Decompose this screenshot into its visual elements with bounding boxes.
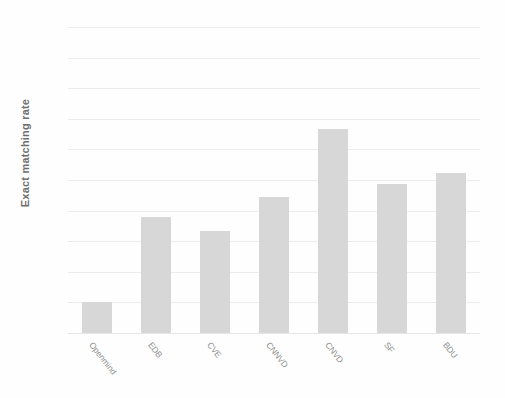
bar-chart: Exact matching rate 0.50.450.40.350.30.2… [0, 0, 505, 398]
x-axis-tick-label: EDB [146, 340, 164, 360]
x-axis-tick-label: CNVD [323, 340, 345, 365]
x-axis-tick-slot: SF [362, 336, 421, 396]
bar-slot [245, 27, 304, 333]
bar [82, 302, 112, 333]
x-axis-tick-slot: Openmind [68, 336, 127, 396]
x-axis-tick-slot: CNNVD [245, 336, 304, 396]
bar [259, 197, 289, 333]
bar-slot [68, 27, 127, 333]
bar-series [68, 27, 480, 333]
bar-slot [421, 27, 480, 333]
bar [436, 173, 466, 333]
bar-slot [303, 27, 362, 333]
bar [377, 184, 407, 333]
x-axis-tick-label: Openmind [88, 340, 120, 376]
x-axis-tick-slot: CNVD [303, 336, 362, 396]
bar-slot [127, 27, 186, 333]
x-axis-tick-label: SF [382, 340, 396, 355]
bar [318, 129, 348, 333]
bar [200, 231, 230, 333]
y-axis-title-label: Exact matching rate [19, 99, 31, 207]
bar [141, 217, 171, 333]
x-axis-tick-label: CVE [205, 340, 223, 360]
y-axis-title: Exact matching rate [14, 0, 36, 306]
x-axis-tick-label: CNNVD [264, 340, 290, 370]
bar-slot [186, 27, 245, 333]
x-axis-tick-slot: CVE [186, 336, 245, 396]
bar-slot [362, 27, 421, 333]
x-axis-tick-slot: BDU [421, 336, 480, 396]
plot-area [68, 27, 480, 333]
x-axis-ticks: OpenmindEDBCVECNNVDCNVDSFBDU [68, 336, 480, 396]
x-axis-tick-slot: EDB [127, 336, 186, 396]
gridline [68, 333, 480, 334]
x-axis-tick-label: BDU [441, 340, 460, 360]
